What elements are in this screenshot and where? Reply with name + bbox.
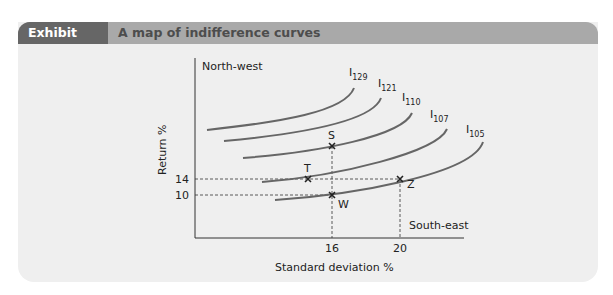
x-tick-20: 20 [393,242,407,255]
svg-text:I105: I105 [466,123,485,139]
indifference-curves [207,88,483,200]
x-axis-label: Standard deviation % [275,261,394,274]
y-tick-14: 14 [175,173,189,186]
point-z-label: Z [407,178,415,191]
point-s-label: S [328,129,335,142]
indifference-chart: I129 I121 I110 I107 I105 S T W Z 14 10 1… [0,0,613,295]
svg-text:I129: I129 [349,66,368,82]
x-tick-16: 16 [325,242,339,255]
south-east-label: South-east [409,219,469,232]
curve-i121 [224,98,381,141]
curve-i107 [262,129,447,182]
svg-text:I110: I110 [402,91,421,107]
svg-text:I121: I121 [378,77,397,93]
north-west-label: North-west [202,60,263,73]
y-axis-label: Return % [156,125,169,175]
y-tick-10: 10 [175,189,189,202]
curve-labels: I129 I121 I110 I107 I105 [349,66,485,139]
svg-text:I107: I107 [430,108,449,124]
point-markers [305,143,403,198]
guide-lines [195,146,400,238]
point-w-label: W [338,198,349,211]
point-t-label: T [303,162,311,175]
